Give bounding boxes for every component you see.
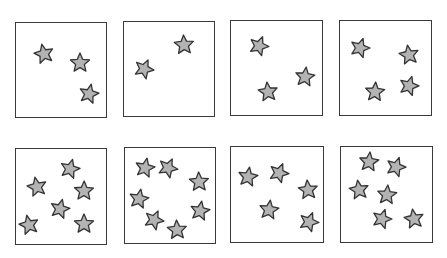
star-icon [129, 189, 149, 209]
star-icon [158, 158, 178, 178]
star-icon [377, 185, 397, 205]
star-icon [135, 158, 155, 178]
star-icon [259, 200, 279, 220]
star-icon [299, 212, 319, 232]
star-icon [365, 82, 385, 102]
star-icon [60, 159, 80, 179]
star-icon [399, 76, 419, 96]
star-icon [269, 163, 289, 183]
star-icon [79, 84, 99, 104]
star-icon [50, 199, 70, 219]
star-icon [74, 181, 94, 201]
star-icon [359, 152, 379, 172]
star-icon [19, 215, 39, 235]
star-icon [238, 167, 258, 187]
star-icon [134, 59, 154, 79]
star-icon [386, 157, 406, 177]
star-icon [70, 53, 90, 73]
star-icon [74, 214, 94, 234]
star-icon [295, 67, 315, 87]
star-icon [189, 172, 209, 192]
star-icon [404, 209, 424, 229]
star-icon [258, 82, 278, 102]
star-icon [34, 44, 54, 64]
star-icon [190, 201, 210, 221]
star-icon [144, 210, 164, 230]
star-icon [372, 209, 392, 229]
star-icon [27, 177, 47, 197]
star-icon [298, 180, 318, 200]
star-icon [174, 35, 194, 55]
star-icon [399, 45, 419, 65]
star-icon [167, 220, 187, 240]
star-icon [349, 180, 369, 200]
star-icon [350, 38, 370, 58]
panel-4 [339, 20, 432, 116]
star-icon [249, 36, 269, 56]
